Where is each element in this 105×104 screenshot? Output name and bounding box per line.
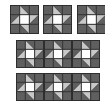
quilt-block (44, 73, 72, 101)
quilt-block (10, 5, 39, 34)
star-block-graphic (16, 40, 44, 68)
quilt-block (72, 73, 100, 101)
star-block-graphic (43, 5, 72, 34)
star-block-graphic (44, 73, 72, 101)
quilt-block (77, 5, 105, 34)
quilt-block (44, 40, 72, 68)
star-block-graphic (77, 5, 105, 34)
star-block-graphic (16, 73, 44, 101)
star-block-graphic (10, 5, 39, 34)
quilt-block (43, 5, 72, 34)
quilt-block (16, 73, 44, 101)
star-block-graphic (44, 40, 72, 68)
star-block-graphic (72, 40, 100, 68)
star-block-graphic (72, 73, 100, 101)
quilt-block (72, 40, 100, 68)
quilt-block (16, 40, 44, 68)
